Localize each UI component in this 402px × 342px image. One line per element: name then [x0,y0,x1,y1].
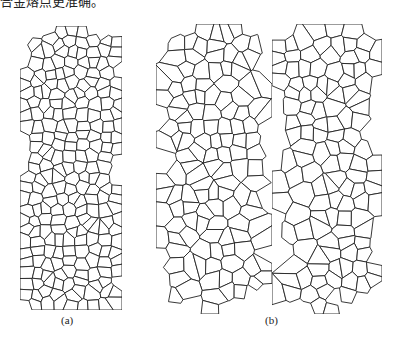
grain-structure-panel-a [20,26,122,310]
grain-structure-panel-b-right [272,24,382,314]
caption-fragment: 合金熔点更准确。 [0,0,104,10]
panel-label-b: (b) [265,314,278,326]
grain-structure-panel-b-left [156,24,272,314]
panel-label-a: (a) [61,314,73,326]
